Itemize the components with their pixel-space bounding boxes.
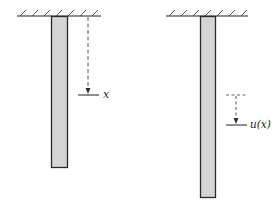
arrow-down-icon xyxy=(234,118,239,124)
diagram-canvas xyxy=(0,0,280,204)
right-ceiling-hatch-icon xyxy=(169,10,247,16)
left-figure xyxy=(17,10,101,168)
right-hanging-bar xyxy=(201,17,216,198)
arrow-down-icon xyxy=(86,88,91,94)
left-ceiling-hatch-icon xyxy=(20,10,98,16)
left-position-indicator xyxy=(78,17,99,95)
right-ceiling-support xyxy=(166,10,248,16)
right-displacement-indicator xyxy=(226,95,247,125)
right-figure xyxy=(166,10,248,198)
displacement-label-u: u(x) xyxy=(250,119,271,130)
left-ceiling-support xyxy=(17,10,101,16)
position-label-x: x xyxy=(103,89,109,100)
left-hanging-bar xyxy=(52,17,68,168)
